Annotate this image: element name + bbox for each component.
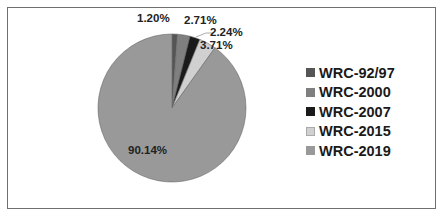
data-label-wrc-2000: 2.71%: [184, 14, 217, 26]
chart-legend: WRC-92/97 WRC-2000 WRC-2007 WRC-2015 WRC…: [306, 63, 395, 161]
legend-item-wrc-92-97: WRC-92/97: [306, 63, 395, 83]
legend-swatch: [306, 88, 315, 97]
legend-item-wrc-2015: WRC-2015: [306, 122, 395, 142]
legend-item-wrc-2007: WRC-2007: [306, 102, 395, 122]
legend-swatch: [306, 146, 315, 155]
legend-label: WRC-92/97: [319, 65, 395, 81]
legend-label: WRC-2019: [319, 143, 391, 159]
legend-label: WRC-2015: [319, 123, 391, 139]
data-label-wrc-2007: 2.24%: [210, 26, 243, 38]
legend-item-wrc-2000: WRC-2000: [306, 83, 395, 103]
legend-label: WRC-2007: [319, 104, 391, 120]
legend-swatch: [306, 127, 315, 136]
data-label-wrc-2015: 3.71%: [200, 39, 233, 51]
pie-slices: [98, 34, 246, 182]
legend-swatch: [306, 107, 315, 116]
data-label-wrc-92-97: 1.20%: [137, 12, 170, 24]
legend-swatch: [306, 68, 315, 77]
data-label-wrc-2019: 90.14%: [128, 144, 167, 156]
pie-slice-wrc-2019: [98, 34, 246, 182]
legend-item-wrc-2019: WRC-2019: [306, 141, 395, 161]
legend-label: WRC-2000: [319, 84, 391, 100]
